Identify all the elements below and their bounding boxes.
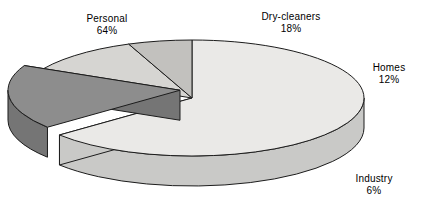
slice-label-personal-name: Personal [61,13,153,25]
slice-label-homes: Homes 12% [352,62,426,85]
slice-label-personal: Personal 64% [61,13,153,36]
slice-label-homes-value: 12% [352,74,426,86]
slice-label-personal-value: 64% [61,25,153,37]
slice-label-dry-cleaners: Dry-cleaners 18% [239,11,343,34]
slice-label-homes-name: Homes [352,62,426,74]
slice-label-industry-name: Industry [337,173,411,185]
slice-label-industry: Industry 6% [337,173,411,196]
slice-label-dry-cleaners-name: Dry-cleaners [239,11,343,23]
slice-label-dry-cleaners-value: 18% [239,23,343,35]
pie-chart-figure: Personal 64% Dry-cleaners 18% Homes 12% … [0,0,432,216]
slice-label-industry-value: 6% [337,185,411,197]
pie-slices-group [8,40,364,186]
